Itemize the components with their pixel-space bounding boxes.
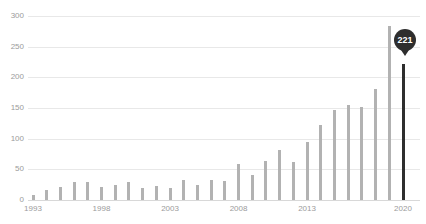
bar-2019[interactable] (388, 26, 391, 200)
y-tick-label-200: 200 (0, 72, 24, 82)
gridline-250 (28, 47, 420, 48)
bar-2014[interactable] (319, 125, 322, 200)
x-tick-label-1993: 1993 (19, 204, 47, 214)
bar-2018[interactable] (374, 89, 377, 200)
bar-2012[interactable] (292, 162, 295, 200)
plot-area (28, 16, 420, 200)
gridline-200 (28, 77, 420, 78)
bar-2020[interactable] (402, 64, 405, 200)
bar-2003[interactable] (169, 188, 172, 200)
gridline-300 (28, 16, 420, 17)
bar-2013[interactable] (306, 142, 309, 200)
bar-2009[interactable] (251, 175, 254, 200)
bar-2015[interactable] (333, 110, 336, 200)
bar-1998[interactable] (100, 187, 103, 200)
bar-2001[interactable] (141, 188, 144, 200)
bar-1999[interactable] (114, 185, 117, 200)
y-tick-label-300: 300 (0, 11, 24, 21)
bar-1994[interactable] (45, 190, 48, 200)
bar-1993[interactable] (32, 195, 35, 200)
y-tick-label-50: 50 (0, 164, 24, 174)
bar-chart: 221 050100150200250300199319982003200820… (0, 0, 426, 224)
x-axis-line (28, 200, 420, 201)
x-tick-label-2008: 2008 (225, 204, 253, 214)
bar-2005[interactable] (196, 185, 199, 200)
x-tick-label-2013: 2013 (293, 204, 321, 214)
x-tick-label-2020: 2020 (389, 204, 417, 214)
x-tick-label-1998: 1998 (88, 204, 116, 214)
bar-2000[interactable] (127, 182, 130, 200)
bar-2008[interactable] (237, 164, 240, 200)
bar-1997[interactable] (86, 182, 89, 200)
y-tick-label-150: 150 (0, 103, 24, 113)
bar-2004[interactable] (182, 180, 185, 200)
bar-2016[interactable] (347, 105, 350, 200)
bar-2010[interactable] (264, 161, 267, 200)
bar-1996[interactable] (73, 182, 76, 200)
y-tick-label-100: 100 (0, 134, 24, 144)
x-tick-label-2003: 2003 (156, 204, 184, 214)
bar-2006[interactable] (210, 180, 213, 200)
bar-1995[interactable] (59, 187, 62, 200)
bar-2011[interactable] (278, 150, 281, 200)
y-tick-label-250: 250 (0, 42, 24, 52)
bar-2002[interactable] (155, 186, 158, 200)
value-badge-tail-icon (401, 50, 409, 56)
bar-2007[interactable] (223, 181, 226, 200)
bar-2017[interactable] (360, 107, 363, 200)
